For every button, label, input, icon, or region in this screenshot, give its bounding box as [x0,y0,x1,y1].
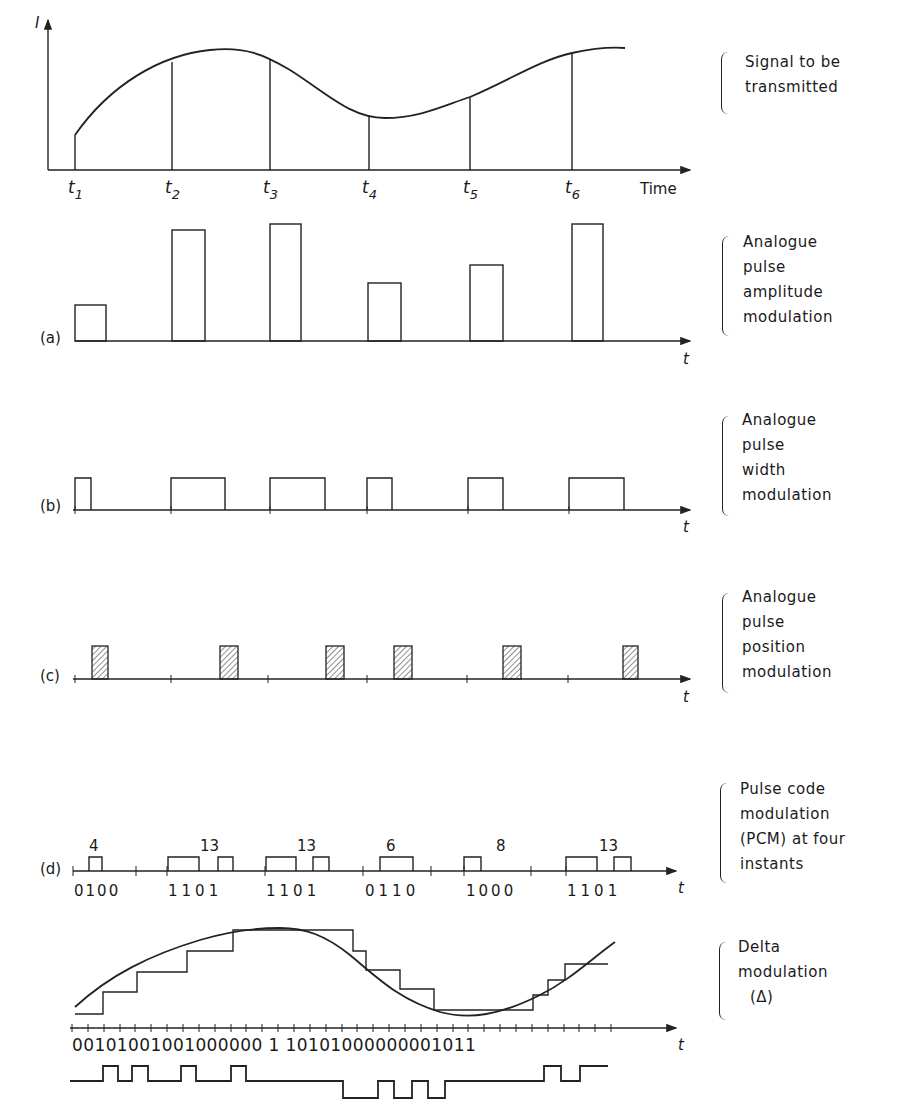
pcm-value: 13 [297,837,316,855]
panel-tag-b: (b) [40,497,61,515]
pcm-code: 1101 [567,882,621,900]
axis-t-delta: t [678,1036,684,1054]
instant-label-t3: t3 [263,177,278,197]
axis-t-d: t [678,879,684,897]
pam-panel [75,224,690,341]
panel-tag-c: (c) [40,667,60,685]
instant-label-t6: t6 [565,177,580,197]
pcm-value: 13 [200,837,219,855]
instant-label-t4: t4 [362,177,377,197]
pcm-code: 0100 [74,882,120,900]
pcm-code: 1101 [168,882,222,900]
brace-icon [719,942,726,1020]
signal-panel [48,20,690,170]
instant-label-t5: t5 [463,177,478,197]
brace-icon [721,52,728,114]
brace-icon [722,236,729,336]
panel-tag-d: (d) [40,860,61,878]
instant-label-t1: tt11 [68,177,83,197]
time-axis-label: Time [640,180,677,198]
delta-panel [70,928,676,1098]
axis-t-a: t [683,350,689,368]
signal-description: Signal to be transmitted [745,50,840,100]
pcm-code: 0110 [365,882,419,900]
pcm-code: 1101 [266,882,320,900]
signal-curve [75,48,625,135]
y-axis-label: I [35,14,39,32]
ppm-description: Analogue pulse position modulation [742,585,832,685]
axis-t-b: t [683,518,689,536]
pcm-value: 8 [496,837,506,855]
pwm-panel [73,478,690,514]
pcm-value: 13 [599,837,618,855]
panel-tag-a: (a) [40,329,61,347]
delta-description: Delta modulation (Δ) [738,935,828,1010]
brace-icon [722,416,729,516]
pam-description: Analogue pulse amplitude modulation [743,230,833,330]
instant-label-t2: t2 [165,177,180,197]
delta-bit-string: 00101001001000000 1 10101000000001011 [72,1035,476,1055]
ppm-panel [73,646,690,683]
pcm-panel [73,857,676,876]
pcm-value: 4 [89,837,99,855]
delta-bitstream-waveform [70,1066,608,1098]
pcm-code: 1000 [466,882,516,900]
pwm-description: Analogue pulse width modulation [742,408,832,508]
brace-icon [722,593,729,693]
pcm-value: 6 [386,837,396,855]
pcm-description: Pulse code modulation (PCM) at four inst… [740,777,845,877]
axis-t-c: t [683,688,689,706]
brace-icon [720,783,727,883]
